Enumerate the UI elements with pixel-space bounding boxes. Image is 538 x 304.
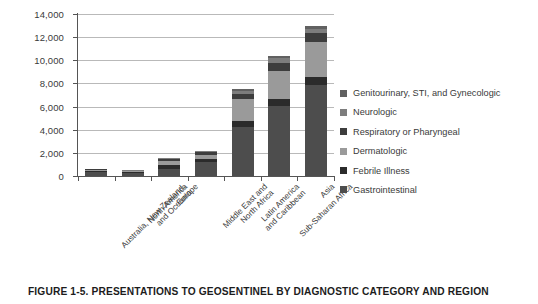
legend-label: Respiratory or Pharyngeal — [353, 127, 460, 137]
legend-swatch-icon — [340, 109, 347, 116]
bar-1[interactable] — [85, 169, 107, 176]
bar-segment — [268, 99, 290, 106]
y-axis-tick-labels: 14,00012,00010,0008,0006,0004,0002,0000 — [0, 0, 74, 190]
legend-item[interactable]: Neurologic — [340, 107, 536, 117]
legend-item[interactable]: Febrile Illness — [340, 166, 536, 176]
x-axis-tick-mark — [151, 177, 152, 181]
legend-swatch-icon — [340, 167, 347, 174]
gridline — [78, 60, 334, 61]
gridline — [78, 107, 334, 108]
legend-label: Genitourinary, STI, and Gynecologic — [353, 88, 500, 98]
bar-segment — [158, 169, 180, 176]
legend-item[interactable]: Dermatologic — [340, 146, 536, 156]
bar-segment — [268, 106, 290, 176]
bar-segment — [305, 42, 327, 78]
y-axis-tick-label: 6,000 — [40, 101, 64, 112]
y-axis-tick-label: 2,000 — [40, 147, 64, 158]
chart-legend: Genitourinary, STI, and GynecologicNeuro… — [340, 88, 536, 204]
bar-segment — [268, 63, 290, 71]
x-axis-tick-labels: Australia, New Zealand,and OceaniaNorth … — [0, 176, 340, 276]
figure-container: 14,00012,00010,0008,0006,0004,0002,0000 … — [0, 0, 538, 304]
legend-label: Gastrointestinal — [353, 185, 417, 195]
legend-swatch-icon — [340, 186, 347, 193]
bar-segment — [305, 33, 327, 42]
legend-swatch-icon — [340, 128, 347, 135]
legend-item[interactable]: Gastrointestinal — [340, 185, 536, 195]
gridline — [78, 14, 334, 15]
plot-area — [78, 14, 334, 176]
bar-segment — [232, 99, 254, 121]
bar-segment — [268, 71, 290, 99]
y-axis-tick-label: 14,000 — [34, 9, 64, 20]
bar-3[interactable] — [158, 158, 180, 176]
bar-segment — [232, 127, 254, 176]
x-axis-tick-mark — [78, 177, 79, 181]
bar-6[interactable] — [268, 56, 290, 176]
x-axis-tick-mark — [188, 177, 189, 181]
bar-segment — [305, 77, 327, 84]
bar-segment — [305, 85, 327, 176]
x-axis-tick-mark — [334, 177, 335, 181]
figure-caption: FIGURE 1-5. PRESENTATIONS TO GEOSENTINEL… — [28, 286, 489, 297]
x-axis-tick-mark — [224, 177, 225, 181]
x-axis-tick-mark — [297, 177, 298, 181]
y-axis-tick-label: 4,000 — [40, 124, 64, 135]
y-axis-tick-label: 8,000 — [40, 78, 64, 89]
legend-label: Febrile Illness — [353, 166, 410, 176]
legend-item[interactable]: Respiratory or Pharyngeal — [340, 127, 536, 137]
y-axis-tick-label: 10,000 — [34, 55, 64, 66]
legend-swatch-icon — [340, 90, 347, 97]
gridline — [78, 130, 334, 131]
legend-label: Dermatologic — [353, 146, 407, 156]
y-axis-tick-label: 12,000 — [34, 32, 64, 43]
bar-segment — [195, 162, 217, 176]
legend-item[interactable]: Genitourinary, STI, and Gynecologic — [340, 88, 536, 98]
x-axis-tick-mark — [261, 177, 262, 181]
bar-7[interactable] — [305, 26, 327, 176]
legend-label: Neurologic — [353, 107, 397, 117]
legend-swatch-icon — [340, 148, 347, 155]
gridline — [78, 83, 334, 84]
bar-5[interactable] — [232, 89, 254, 176]
gridline — [78, 37, 334, 38]
bar-4[interactable] — [195, 151, 217, 176]
x-axis-tick-mark — [115, 177, 116, 181]
